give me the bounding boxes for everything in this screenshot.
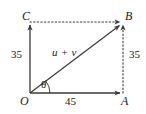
point-label-b: B [125,10,132,22]
point-label-o: O [20,95,29,107]
measurement-bottom-45: 45 [65,96,76,107]
point-label-a: A [121,95,128,107]
vector-diagram-figure: C B O A 35 35 45 u + v θ [0,0,146,114]
resultant-vector-label: u + v [52,47,77,58]
measurement-left-35: 35 [11,49,22,60]
point-label-c: C [22,10,30,22]
angle-theta-label: θ [41,79,46,90]
measurement-right-35: 35 [129,49,140,60]
